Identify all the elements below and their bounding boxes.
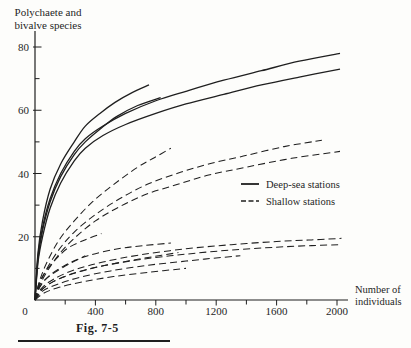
y-tick-label: 40 <box>18 168 30 180</box>
origin-tick-label: 0 <box>22 305 28 317</box>
legend-item-deep-sea: Deep-sea stations <box>241 176 340 192</box>
x-tick-label: 1200 <box>205 305 228 317</box>
x-tick-label: 2000 <box>326 305 349 317</box>
shallow-curve-shallow-9 <box>35 256 240 300</box>
x-tick-label: 1600 <box>266 305 289 317</box>
legend-label-deep-sea: Deep-sea stations <box>266 179 340 190</box>
figure-caption: Fig. 7-5 <box>76 321 119 336</box>
figure: Polychaete and bivalve species 400800120… <box>0 0 411 348</box>
footnote-rule <box>18 340 170 342</box>
legend-label-shallow: Shallow stations <box>266 196 335 207</box>
shallow-curve-shallow-6 <box>35 238 342 300</box>
y-tick-label: 80 <box>18 41 30 53</box>
shallow-curve-shallow-7 <box>35 245 342 300</box>
x-axis-title-line1: Number of <box>355 284 411 296</box>
rarefaction-chart: 400800120016002000020406080 <box>0 0 411 348</box>
x-tick-label: 800 <box>148 305 165 317</box>
shallow-curve-shallow-1 <box>35 148 171 300</box>
x-tick-label: 400 <box>87 305 104 317</box>
shallow-curve-shallow-2 <box>35 140 322 300</box>
shallow-line-sample-icon <box>241 198 259 204</box>
x-axis-title-line2: individuals <box>355 296 411 308</box>
x-axis-title: Number of individuals <box>355 284 411 308</box>
legend: Deep-sea stations Shallow stations <box>241 176 340 210</box>
legend-item-shallow: Shallow stations <box>241 193 340 209</box>
y-tick-label: 20 <box>18 231 30 243</box>
shallow-curve-shallow-8 <box>35 253 178 300</box>
y-tick-label: 60 <box>18 104 30 116</box>
deep-sea-line-sample-icon <box>241 181 259 187</box>
